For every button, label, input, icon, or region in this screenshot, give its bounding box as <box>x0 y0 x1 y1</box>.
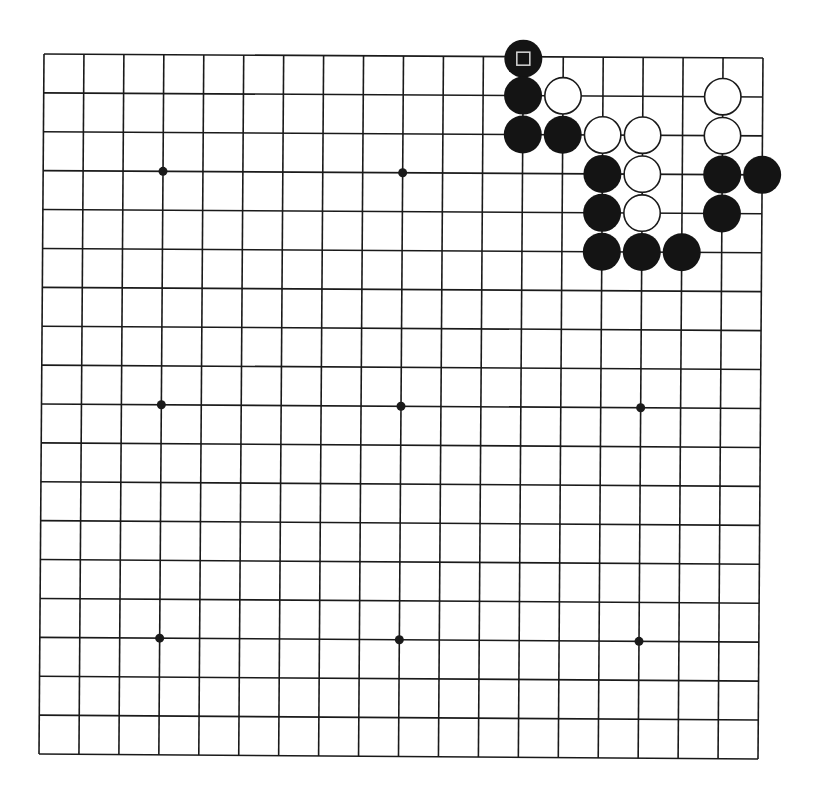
white-stone <box>624 195 660 231</box>
black-stone <box>623 233 661 271</box>
star-point <box>635 637 644 646</box>
white-stone <box>705 79 741 115</box>
white-stone-body <box>624 195 660 231</box>
black-stone <box>583 194 621 232</box>
black-stone-body <box>663 233 701 271</box>
black-stone-body <box>623 233 661 271</box>
black-stone <box>583 155 621 193</box>
white-stone <box>584 117 620 153</box>
black-stone <box>544 116 582 154</box>
star-point <box>157 400 166 409</box>
star-point <box>395 635 404 644</box>
go-board-diagram <box>0 0 818 799</box>
go-board <box>0 0 818 799</box>
black-stone <box>504 40 542 78</box>
black-stone-body <box>583 233 621 271</box>
black-stone-body <box>504 116 542 154</box>
black-stone <box>583 233 621 271</box>
black-stone <box>743 156 781 194</box>
white-stone-body <box>624 117 660 153</box>
star-point <box>155 634 164 643</box>
star-point <box>397 402 406 411</box>
black-stone <box>504 77 542 115</box>
black-stone-body <box>504 77 542 115</box>
white-stone-body <box>584 117 620 153</box>
black-stone-body <box>743 156 781 194</box>
white-stone <box>545 78 581 114</box>
black-stone-body <box>583 155 621 193</box>
star-point <box>398 168 407 177</box>
black-stone-body <box>504 40 542 78</box>
black-stone <box>703 156 741 194</box>
black-stone <box>663 233 701 271</box>
white-stone-body <box>705 79 741 115</box>
white-stone <box>624 117 660 153</box>
black-stone <box>703 195 741 233</box>
black-stone-body <box>703 156 741 194</box>
black-stone-body <box>703 195 741 233</box>
white-stone <box>624 156 660 192</box>
star-point <box>636 403 645 412</box>
white-stone <box>704 117 740 153</box>
black-stone-body <box>583 194 621 232</box>
black-stone <box>504 116 542 154</box>
black-stone-body <box>544 116 582 154</box>
white-stone-body <box>624 156 660 192</box>
star-point <box>159 167 168 176</box>
white-stone-body <box>704 117 740 153</box>
white-stone-body <box>545 78 581 114</box>
